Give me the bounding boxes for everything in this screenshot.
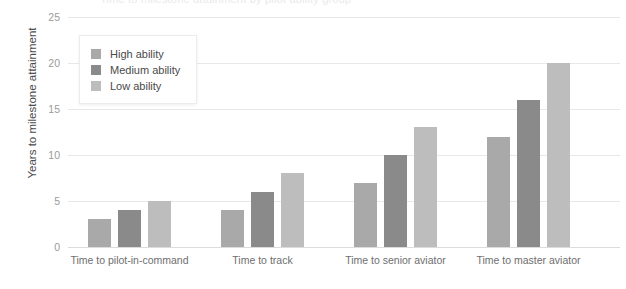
bar[interactable] [148,201,171,247]
bar[interactable] [354,183,377,247]
bar[interactable] [281,173,304,247]
legend-item-label: Medium ability [110,64,180,76]
bar[interactable] [487,137,510,247]
y-tick-label-25: 25 [30,12,60,23]
bar[interactable] [251,192,274,247]
bar[interactable] [547,63,570,247]
legend-item[interactable]: Low ability [91,78,180,93]
legend-swatch-icon [91,49,101,59]
x-category-label: Time to master aviator [439,254,619,266]
y-tick-label-5: 5 [30,196,60,207]
gridline-25 [68,17,620,18]
legend-item[interactable]: High ability [91,46,180,61]
legend-swatch-icon [91,65,101,75]
bar-chart: Time to milestone attainment by pilot ab… [0,0,626,289]
gridline-0 [68,247,620,248]
y-tick-label-0: 0 [30,242,60,253]
y-tick-label-20: 20 [30,58,60,69]
bar[interactable] [118,210,141,247]
chart-legend: High abilityMedium abilityLow ability [79,35,197,104]
bar[interactable] [414,127,437,247]
legend-item[interactable]: Medium ability [91,62,180,77]
bar[interactable] [88,219,111,247]
legend-swatch-icon [91,81,101,91]
chart-title: Time to milestone attainment by pilot ab… [100,0,520,5]
y-tick-label-15: 15 [30,104,60,115]
legend-item-label: Low ability [110,80,161,92]
legend-item-label: High ability [110,48,164,60]
bar[interactable] [517,100,540,247]
y-tick-label-10: 10 [30,150,60,161]
bar[interactable] [384,155,407,247]
bar[interactable] [221,210,244,247]
